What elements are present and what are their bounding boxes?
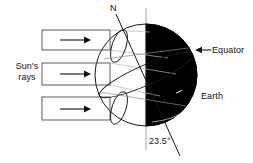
label-equator: Equator bbox=[212, 45, 244, 56]
label-tilt-angle: 23.5° bbox=[149, 136, 171, 147]
equator-pointer-arrow bbox=[195, 47, 211, 53]
sun-ray-arrow-top bbox=[60, 37, 91, 44]
sun-ray-arrow-middle bbox=[60, 71, 91, 78]
label-earth: Earth bbox=[201, 91, 223, 102]
diagram-canvas: Sun's rays N Equator Earth 23.5° bbox=[0, 0, 253, 163]
label-suns-rays: Sun's rays bbox=[10, 61, 44, 83]
earth-night-side bbox=[146, 24, 197, 126]
sun-ray-arrow-bottom bbox=[60, 106, 91, 113]
label-north-pole: N bbox=[110, 3, 117, 14]
